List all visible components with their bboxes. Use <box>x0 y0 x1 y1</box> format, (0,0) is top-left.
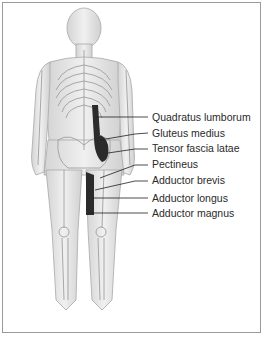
label-quadratus-lumborum: Quadratus lumborum <box>152 111 251 123</box>
label-adductor-longus: Adductor longus <box>152 192 228 204</box>
label-tensor-fascia-latae: Tensor fascia latae <box>152 142 240 154</box>
label-gluteus-medius: Gluteus medius <box>152 127 225 139</box>
anatomy-figure <box>0 0 267 341</box>
label-adductor-magnus: Adductor magnus <box>152 207 234 219</box>
label-adductor-brevis: Adductor brevis <box>152 174 225 186</box>
label-pectineus: Pectineus <box>152 158 198 170</box>
adductor-muscles <box>86 172 94 215</box>
body-silhouette <box>32 8 135 310</box>
